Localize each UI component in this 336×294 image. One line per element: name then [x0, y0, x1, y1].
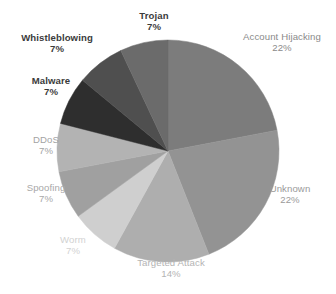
pie-label-malware-name: Malware [8, 75, 94, 86]
pie-label-malware: Malware 7% [8, 75, 94, 98]
pie-label-unknown-value: 22% [248, 194, 332, 205]
pie-label-targeted-attack-name: Targeted Attack [114, 257, 228, 268]
pie-label-whistleblowing-value: 7% [2, 43, 112, 54]
pie-label-trojan: Trojan 7% [116, 10, 192, 33]
pie-label-trojan-value: 7% [116, 21, 192, 32]
pie-label-spoofing-name: Spoofing [4, 182, 88, 193]
pie-label-account-hijacking: Account Hijacking 22% [228, 31, 336, 54]
pie-label-worm: Worm 7% [34, 234, 112, 257]
pie-label-worm-value: 7% [34, 245, 112, 256]
pie-label-targeted-attack: Targeted Attack 14% [114, 257, 228, 280]
pie-label-spoofing-value: 7% [4, 193, 88, 204]
pie-chart: Account Hijacking 22% Trojan 7% Whistleb… [0, 0, 336, 294]
pie-label-targeted-attack-value: 14% [114, 268, 228, 279]
pie-label-ddos: DDoS 7% [6, 134, 86, 157]
pie-label-worm-name: Worm [34, 234, 112, 245]
pie-label-ddos-value: 7% [6, 145, 86, 156]
pie-label-whistleblowing-name: Whistleblowing [2, 32, 112, 43]
pie-label-ddos-name: DDoS [6, 134, 86, 145]
pie-label-malware-value: 7% [8, 86, 94, 97]
pie-label-unknown: Unknown 22% [248, 183, 332, 206]
pie-label-unknown-name: Unknown [248, 183, 332, 194]
pie-label-account-hijacking-name: Account Hijacking [228, 31, 336, 42]
pie-label-trojan-name: Trojan [116, 10, 192, 21]
pie-label-account-hijacking-value: 22% [228, 42, 336, 53]
pie-label-whistleblowing: Whistleblowing 7% [2, 32, 112, 55]
pie-label-spoofing: Spoofing 7% [4, 182, 88, 205]
